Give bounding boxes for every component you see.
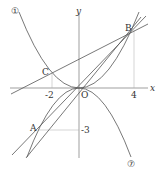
curve-7-label: ⑦ — [127, 159, 135, 169]
point-a-label: A — [29, 123, 37, 133]
tick-x-4: 4 — [131, 90, 137, 100]
tick-x-neg2: -2 — [45, 90, 54, 100]
diagram: y x O -2 4 -3 A B C ① ⑦ — [0, 0, 159, 177]
tick-y-neg3: -3 — [81, 125, 90, 135]
point-c-label: C — [42, 67, 49, 77]
line-ob-steep — [26, 17, 141, 158]
line-cb — [11, 24, 148, 94]
x-axis-label: x — [150, 83, 155, 93]
coordinate-plane: y x O -2 4 -3 A B C ① ⑦ — [0, 0, 159, 177]
origin-label: O — [81, 90, 88, 100]
y-axis-label: y — [75, 6, 82, 16]
curve-1-label: ① — [11, 6, 19, 16]
point-b-label: B — [125, 23, 132, 33]
